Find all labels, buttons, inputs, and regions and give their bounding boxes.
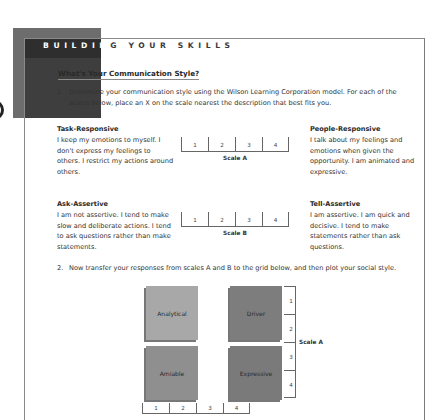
section-title: BUILDING YOUR SKILLS xyxy=(43,41,235,50)
quadrant-expressive[interactable]: Expressive xyxy=(230,346,282,400)
page-heading: What's Your Communication Style? xyxy=(58,69,199,80)
vscale-cell-4: 4 xyxy=(284,370,296,398)
hscale-cell-4: 4 xyxy=(223,403,250,414)
quadrant-analytical[interactable]: Analytical xyxy=(146,286,198,340)
task-responsive-description: Task-Responsive I keep my emotions to my… xyxy=(57,124,175,178)
vscale-cell-2: 2 xyxy=(284,314,296,342)
step-1: 1. Determine your communication style us… xyxy=(57,87,407,109)
scale-a-cell-4[interactable]: 4 xyxy=(262,137,289,152)
scale-b: 1 2 3 4 xyxy=(181,212,289,227)
scale-a-cell-3[interactable]: 3 xyxy=(235,137,262,152)
quadrant-driver[interactable]: Driver xyxy=(230,286,282,340)
hscale-cell-2: 2 xyxy=(169,403,196,414)
tell-assertive-description: Tell-Assertive I am assertive. I am quic… xyxy=(310,199,422,253)
grid-vertical-scale-caption: Scale A xyxy=(299,339,323,345)
page-edge-mark xyxy=(0,100,4,120)
hscale-cell-1: 1 xyxy=(142,403,169,414)
vscale-cell-3: 3 xyxy=(284,342,296,370)
vscale-cell-1: 1 xyxy=(284,286,296,314)
scale-b-caption: Scale B xyxy=(181,230,289,236)
people-responsive-description: People-Responsive I talk about my feelin… xyxy=(310,124,420,178)
ask-assertive-description: Ask-Assertive I am not assertive. I tend… xyxy=(57,199,177,253)
scale-b-cell-3[interactable]: 3 xyxy=(235,212,262,227)
grid-vertical-scale: 1 2 3 4 xyxy=(284,286,296,398)
quadrant-amiable[interactable]: Amiable xyxy=(146,346,198,400)
scale-b-cell-4[interactable]: 4 xyxy=(262,212,289,227)
scale-a: 1 2 3 4 xyxy=(181,137,289,152)
scale-b-cell-1[interactable]: 1 xyxy=(181,212,208,227)
hscale-cell-3: 3 xyxy=(196,403,223,414)
grid-horizontal-scale: 1 2 3 4 xyxy=(142,403,250,414)
scale-a-cell-2[interactable]: 2 xyxy=(208,137,235,152)
scale-a-cell-1[interactable]: 1 xyxy=(181,137,208,152)
scale-a-caption: Scale A xyxy=(181,155,289,161)
step-2: 2. Now transfer your responses from scal… xyxy=(57,263,427,274)
scale-b-cell-2[interactable]: 2 xyxy=(208,212,235,227)
